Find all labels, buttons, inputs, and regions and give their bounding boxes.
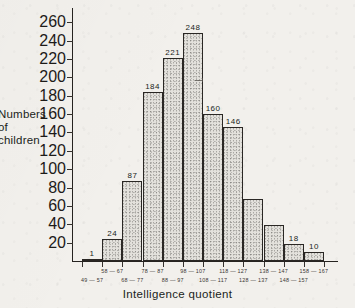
y-axis-tick — [67, 96, 73, 97]
x-axis-tick — [102, 262, 103, 267]
y-axis-tick — [67, 114, 73, 115]
x-axis-tick — [284, 262, 285, 267]
y-axis-tick-label: 240 — [38, 32, 66, 50]
bar-value-label: 146 — [226, 117, 241, 126]
x-axis-bin-label: 148 — 157 — [279, 277, 308, 283]
bar-value-label: 221 — [165, 48, 180, 57]
bar-value-label: 160 — [206, 104, 221, 113]
histogram-bar — [223, 127, 243, 261]
y-axis-tick — [67, 151, 73, 152]
x-axis-tick — [243, 262, 244, 267]
x-axis-tick — [304, 262, 305, 267]
bar-value-label: 87 — [127, 171, 137, 180]
y-axis-tick — [67, 224, 73, 225]
y-axis-tick-label: 40 — [38, 215, 66, 233]
x-axis-tick — [203, 262, 204, 267]
y-axis-tick-label: 180 — [38, 87, 66, 105]
y-axis-tick-label: 80 — [38, 179, 66, 197]
y-axis-tick — [67, 188, 73, 189]
x-axis-line — [72, 261, 338, 262]
bar-value-label: 24 — [107, 229, 117, 238]
x-axis-bin-label: 158 — 167 — [300, 268, 329, 274]
plot-area: 20406080100120140160180200220240260 1248… — [72, 8, 340, 266]
x-axis-tick — [163, 262, 164, 267]
x-axis-tick — [122, 262, 123, 267]
x-axis-bin-label: 118 — 127 — [219, 268, 247, 274]
y-axis-tick — [67, 243, 73, 244]
x-axis-bin-label: 58 — 67 — [101, 268, 123, 274]
y-axis-tick — [67, 22, 73, 23]
histogram-bar — [284, 244, 304, 261]
histogram-bar — [243, 199, 263, 261]
y-axis-tick — [67, 206, 73, 207]
x-axis-tick — [82, 262, 83, 267]
bar-value-label: 18 — [289, 234, 299, 243]
x-axis-bin-label: 98 — 107 — [180, 268, 205, 274]
stray-print-mark — [202, 78, 203, 82]
x-axis-bin-label: 88 — 97 — [162, 277, 184, 283]
histogram-bar — [304, 252, 324, 261]
y-axis-tick-label: 60 — [38, 197, 66, 215]
bar-value-label: 10 — [309, 242, 319, 251]
histogram-bar — [82, 259, 102, 261]
y-axis-tick-label: 200 — [38, 68, 66, 86]
x-axis-bin-label: 138 — 147 — [259, 268, 288, 274]
x-axis-bin-label: 128 — 137 — [239, 277, 268, 283]
histogram-bar — [143, 92, 163, 261]
y-axis-tick-label: 120 — [38, 142, 66, 160]
histogram-bar — [203, 114, 223, 261]
bar-value-label: 1 — [90, 249, 95, 258]
histogram-bar — [102, 239, 122, 261]
y-axis-tick-label: 220 — [38, 50, 66, 68]
y-axis-tick — [67, 132, 73, 133]
y-axis-tick — [67, 59, 73, 60]
histogram-bar — [163, 58, 183, 261]
x-axis-bin-label: 49 — 57 — [81, 277, 103, 283]
y-axis-tick-label: 160 — [38, 105, 66, 123]
y-axis-tick — [67, 169, 73, 170]
y-axis-tick-label: 100 — [38, 160, 66, 178]
bar-value-label: 248 — [185, 23, 200, 32]
x-axis-tick — [264, 262, 265, 267]
stray-print-mark — [195, 80, 202, 81]
y-axis-tick — [67, 41, 73, 42]
histogram-bar — [122, 181, 142, 261]
x-axis-bin-label: 78 — 87 — [142, 268, 164, 274]
x-axis-tick — [223, 262, 224, 267]
histogram-figure: Numbers of children 20406080100120140160… — [0, 0, 355, 308]
y-axis-tick-label: 140 — [38, 123, 66, 141]
x-axis-tick — [183, 262, 184, 267]
y-axis-tick-label: 20 — [38, 234, 66, 252]
x-axis-bin-label: 68 — 77 — [121, 277, 143, 283]
x-axis-tick — [324, 262, 325, 267]
histogram-bar — [264, 225, 284, 261]
histogram-bar — [183, 33, 203, 261]
bar-value-label: 184 — [145, 82, 160, 91]
y-axis-tick — [67, 77, 73, 78]
x-axis-tick — [143, 262, 144, 267]
x-axis-bin-label: 108 — 117 — [199, 277, 227, 283]
x-axis-title: Intelligence quotient — [0, 288, 355, 300]
y-axis-tick-label: 260 — [38, 13, 66, 31]
